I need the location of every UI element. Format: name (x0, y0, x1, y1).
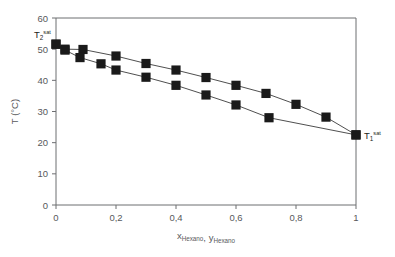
data-point-marker (261, 89, 270, 98)
data-point-marker (141, 73, 150, 82)
data-point-marker (231, 100, 240, 109)
y-axis-title: T (°C) (9, 99, 20, 124)
t1-sat-annotation: T1sat (364, 130, 381, 143)
y-tick-label: 0 (43, 200, 48, 211)
y-tick-label: 30 (37, 106, 48, 117)
x-tick-label: 0,2 (109, 212, 122, 223)
series-line (56, 44, 356, 135)
data-point-marker (60, 46, 69, 55)
y-tick-label: 40 (37, 75, 48, 86)
data-point-marker (111, 65, 120, 74)
data-point-marker (141, 59, 150, 68)
data-point-marker (231, 81, 240, 90)
data-point-marker (96, 59, 105, 68)
data-point-marker (321, 113, 330, 122)
data-point-marker (201, 73, 210, 82)
data-point-marker (201, 90, 210, 99)
data-point-marker (75, 53, 84, 62)
y-tick-label: 50 (37, 44, 48, 55)
y-tick-label: 20 (37, 137, 48, 148)
data-point-marker (78, 45, 87, 54)
x-axis-title: xHexano, yHexano (177, 230, 236, 244)
series-line (56, 44, 356, 135)
data-point-marker (51, 40, 60, 49)
data-point-marker (351, 130, 360, 139)
chart-figure: 010203040506000,20,40,60,81T (°C)xHexano… (0, 0, 395, 257)
x-tick-label: 0,4 (169, 212, 182, 223)
t2-sat-annotation: T2sat (34, 29, 51, 42)
data-point-marker (111, 51, 120, 60)
data-point-marker (264, 113, 273, 122)
tx-y-phase-diagram: 010203040506000,20,40,60,81T (°C)xHexano… (0, 0, 395, 257)
x-tick-label: 0,8 (289, 212, 302, 223)
y-tick-label: 60 (37, 13, 48, 24)
x-tick-label: 1 (353, 212, 358, 223)
y-tick-label: 10 (37, 168, 48, 179)
data-point-marker (171, 81, 180, 90)
data-point-marker (171, 65, 180, 74)
data-point-marker (291, 100, 300, 109)
x-tick-label: 0,6 (229, 212, 242, 223)
x-tick-label: 0 (53, 212, 58, 223)
